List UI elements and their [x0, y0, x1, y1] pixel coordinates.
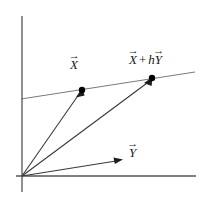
vector-y-symbol-2: Y→: [155, 53, 162, 66]
vector-x-plus-hy-shaft: [22, 81, 151, 177]
vector-x-shaft: [22, 92, 81, 176]
vector-x-endpoint-dot: [79, 87, 85, 93]
vector-x-symbol-2: X→: [129, 53, 137, 66]
vector-x-symbol: X→: [70, 58, 78, 71]
vector-x-group: [22, 87, 85, 176]
vector-x-plus-hy-endpoint-dot: [149, 75, 155, 81]
vector-y-symbol: Y→: [129, 146, 136, 159]
axes-group: [16, 16, 196, 192]
vector-y-base: Y: [129, 145, 136, 160]
vector-diagram-canvas: [0, 0, 204, 200]
affine-line: [21, 72, 195, 99]
vector-x-base: X: [70, 57, 78, 72]
vector-x-base-2: X: [129, 52, 137, 67]
label-vector-y: Y→: [129, 146, 136, 159]
vector-y-group: [22, 158, 123, 177]
vector-y-base-2: Y: [155, 52, 162, 67]
plus-operator: +: [139, 53, 146, 66]
vector-addition-figure: X→ X→+hY→ Y→: [0, 0, 204, 200]
vector-y-arrowhead: [114, 158, 124, 164]
vector-x-plus-hy-group: [22, 75, 155, 176]
label-vector-x: X→: [70, 58, 78, 71]
label-vector-x-plus-hy: X→+hY→: [129, 53, 162, 66]
vector-y-shaft: [22, 161, 116, 176]
